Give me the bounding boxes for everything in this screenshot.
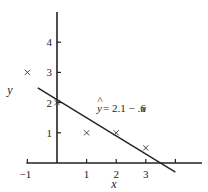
data-point (143, 145, 148, 150)
data-point (114, 130, 119, 135)
y-tick-label: 4 (47, 36, 53, 48)
regression-equation: y ^ = 2.1 − .6 x (96, 94, 146, 114)
data-point (25, 70, 30, 75)
x-tick-label: 1 (84, 168, 90, 180)
y-tick-label: 3 (47, 66, 53, 78)
axes (26, 12, 202, 163)
equation-var: x (140, 102, 146, 114)
x-tick-label: 3 (143, 168, 149, 180)
regression-line (38, 88, 176, 172)
y-tick-label: 1 (47, 127, 53, 139)
equation-body: = 2.1 − .6 (103, 102, 146, 114)
regression-line-group (38, 88, 176, 172)
data-point (84, 130, 89, 135)
x-tick-label: −1 (20, 168, 32, 180)
scatter-chart: −11231234 x y y ^ = 2.1 − .6 x (0, 0, 208, 192)
x-axis-label: x (110, 177, 117, 191)
y-tick-label: 2 (47, 97, 53, 109)
y-axis-label: y (6, 83, 13, 97)
